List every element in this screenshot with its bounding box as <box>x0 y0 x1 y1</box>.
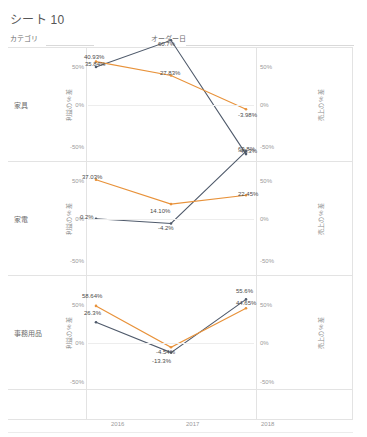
data-label: 40.93% <box>84 54 104 60</box>
right-axis-title: 売上の % 差 <box>316 316 325 349</box>
left-axis-ticks: 50% 0% -50% <box>64 52 84 158</box>
series-profit-line <box>96 299 246 352</box>
zero-gridline <box>88 343 254 344</box>
right-axis-title: 売上の % 差 <box>316 202 325 235</box>
panel-row-office-supplies: 事務用品 利益の % 差 売上の % 差 50% 0% -50% 50% 0% … <box>8 276 353 390</box>
data-point <box>245 307 248 310</box>
data-point <box>170 203 173 206</box>
panel-row-furniture: 家具 利益の % 差 売上の % 差 50% 0% -50% 50% 0% -5… <box>8 48 353 162</box>
ytick-left-bottom: -50% <box>70 379 84 385</box>
series-sales-line <box>96 306 246 347</box>
row-label-category: 事務用品 <box>14 328 42 338</box>
ytick-right-mid: 0% <box>260 216 269 222</box>
right-axis-ticks: 50% 0% -50% <box>260 280 284 386</box>
ytick-left-top: 50% <box>72 64 84 70</box>
ytick-right-bottom: -50% <box>260 258 274 264</box>
data-label: -4.54% <box>156 349 175 355</box>
data-point <box>245 108 248 111</box>
data-label: 58.64% <box>82 293 102 299</box>
series-sales-line <box>96 180 246 204</box>
data-label: 14.10% <box>150 208 170 214</box>
ytick-left-top: 50% <box>72 302 84 308</box>
data-label: 55.6% <box>236 288 253 294</box>
plot-area-furniture: 40.93% 35.84% 60.7% 27.83% -3.98% -46.3% <box>88 52 254 158</box>
ytick-left-bottom: -50% <box>70 144 84 150</box>
page-title: シート 10 <box>10 10 64 27</box>
x-axis-baseline <box>8 419 353 420</box>
data-label: 63.8% <box>238 146 255 152</box>
data-point <box>95 305 98 308</box>
plot-area-office-supplies: 58.64% 26.3% -4.54% -13.3% 55.6% 44.65% <box>88 280 254 386</box>
zero-gridline <box>88 219 254 220</box>
ytick-right-mid: 0% <box>260 340 269 346</box>
data-label: 44.65% <box>236 300 256 306</box>
column-header-band: カテゴリ オーダー日 <box>8 33 353 47</box>
series-profit-line <box>96 40 246 154</box>
series-sales-line <box>96 62 246 110</box>
worksheet-canvas: シート 10 カテゴリ オーダー日 家具 利益の % 差 売上の % 差 50%… <box>0 0 367 437</box>
row-label-category: 家電 <box>14 214 28 224</box>
ytick-left-bottom: -50% <box>70 258 84 264</box>
ytick-right-top: 50% <box>260 64 272 70</box>
ytick-right-bottom: -50% <box>260 379 274 385</box>
data-label: 26.3% <box>84 310 101 316</box>
column-header-category: カテゴリ <box>10 33 38 43</box>
data-label: 60.7% <box>158 41 175 47</box>
data-label: 37.03% <box>82 174 102 180</box>
data-label: -4.2% <box>158 225 174 231</box>
data-label: 0.2% <box>80 214 94 220</box>
data-point <box>95 321 98 324</box>
line-chart-office-supplies <box>88 280 254 386</box>
ytick-right-top: 50% <box>260 302 272 308</box>
header-rule-right <box>186 45 354 46</box>
ytick-right-top: 50% <box>260 178 272 184</box>
right-axis-ticks: 50% 0% -50% <box>260 52 284 158</box>
data-label: 22.45% <box>238 191 258 197</box>
row-label-category: 家具 <box>14 100 28 110</box>
data-label: -13.3% <box>152 358 171 364</box>
zero-gridline <box>88 105 254 106</box>
data-label: -3.98% <box>238 112 257 118</box>
plot-area-appliances: 37.03% 0.2% 14.10% -4.2% 22.45% 63.8% <box>88 166 254 272</box>
right-axis-title: 売上の % 差 <box>316 88 325 121</box>
ytick-left-mid: 0% <box>75 340 84 346</box>
right-axis-ticks: 50% 0% -50% <box>260 166 284 272</box>
panel-row-appliances: 家電 利益の % 差 売上の % 差 50% 0% -50% 50% 0% -5… <box>8 162 353 276</box>
data-label: 27.83% <box>160 70 180 76</box>
data-label: 35.84% <box>85 61 105 67</box>
ytick-right-mid: 0% <box>260 102 269 108</box>
ytick-right-bottom: -50% <box>260 144 274 150</box>
xtick-2018: 2018 <box>261 421 274 427</box>
x-axis: 2016 2017 2018 <box>8 419 353 437</box>
xtick-2016: 2016 <box>111 421 124 427</box>
header-rule-left <box>46 45 94 46</box>
bottom-rule <box>8 432 353 433</box>
xtick-2017: 2017 <box>186 421 199 427</box>
ytick-left-mid: 0% <box>75 102 84 108</box>
left-axis-ticks: 50% 0% -50% <box>64 280 84 386</box>
small-multiples-grid: 家具 利益の % 差 売上の % 差 50% 0% -50% 50% 0% -5… <box>8 47 353 419</box>
